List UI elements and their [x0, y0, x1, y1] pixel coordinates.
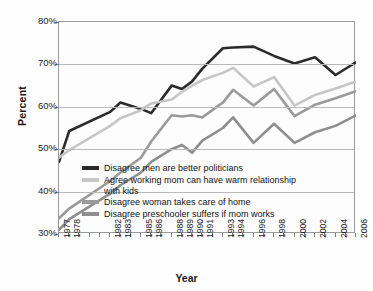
x-tick-mark — [99, 233, 100, 237]
legend-swatch — [82, 178, 99, 182]
x-tick-label: 1998 — [277, 219, 287, 238]
x-tick-mark — [335, 233, 336, 237]
x-tick-mark — [273, 233, 274, 237]
x-tick-mark — [89, 233, 90, 237]
gridline — [59, 149, 354, 150]
x-tick-label: 2002 — [318, 219, 328, 238]
legend-label: Disagree preschooler suffers if mom work… — [104, 209, 274, 220]
y-tick-label: 50% — [23, 142, 57, 153]
x-tick-label: 1988 — [175, 219, 185, 238]
legend-swatch — [82, 212, 99, 216]
legend-label: Disagree men are better politicians — [104, 163, 243, 174]
y-tick-label: 40% — [23, 185, 57, 196]
x-tick-label: 1983 — [123, 219, 133, 238]
legend-label: Disagree woman takes care of home — [104, 197, 251, 208]
legend-item: Agree working mom can have warm relation… — [82, 175, 297, 196]
x-tick-mark — [253, 233, 254, 237]
legend-swatch — [82, 166, 99, 170]
x-tick-mark — [314, 233, 315, 237]
x-tick-label: 1994 — [236, 219, 246, 238]
legend-swatch — [82, 200, 99, 204]
gridline — [59, 107, 354, 108]
chart-figure: Percent Year 30%40%50%60%70%80% 19771978… — [0, 0, 373, 291]
x-tick-label: 1986 — [154, 219, 164, 238]
x-tick-label: 1990 — [195, 219, 205, 238]
x-tick-mark — [140, 233, 141, 237]
x-tick-mark — [171, 233, 172, 237]
x-tick-label: 1985 — [144, 219, 154, 238]
y-tick-label: 70% — [23, 57, 57, 68]
legend-item: Disagree woman takes care of home — [82, 197, 297, 208]
x-axis-title: Year — [0, 272, 373, 284]
legend-item: Disagree preschooler suffers if mom work… — [82, 209, 297, 220]
x-tick-label: 1978 — [72, 219, 82, 238]
x-tick-label: 1977 — [62, 219, 72, 238]
x-tick-label: 1993 — [226, 219, 236, 238]
x-tick-label: 1996 — [257, 219, 267, 238]
x-tick-label: 1982 — [113, 219, 123, 238]
legend-label: Agree working mom can have warm relation… — [104, 175, 297, 196]
x-tick-mark — [355, 233, 356, 237]
x-tick-mark — [109, 233, 110, 237]
legend-item: Disagree men are better politicians — [82, 163, 297, 174]
x-tick-label: 1991 — [205, 219, 215, 238]
x-tick-label: 2006 — [359, 219, 369, 238]
x-tick-mark — [58, 233, 59, 237]
y-tick-label: 80% — [23, 15, 57, 26]
x-tick-label: 2000 — [298, 219, 308, 238]
x-tick-label: 1989 — [185, 219, 195, 238]
x-tick-label: 2004 — [339, 219, 349, 238]
x-tick-mark — [222, 233, 223, 237]
gridline — [59, 64, 354, 65]
x-tick-mark — [294, 233, 295, 237]
y-tick-label: 60% — [23, 100, 57, 111]
chart-legend: Disagree men are better politiciansAgree… — [82, 163, 297, 221]
y-tick-label: 30% — [23, 227, 57, 238]
